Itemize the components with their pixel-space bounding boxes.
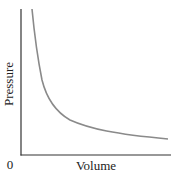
pressure-volume-chart: 0 Volume Pressure: [0, 0, 180, 184]
origin-label: 0: [7, 157, 14, 172]
pressure-volume-curve: [32, 9, 168, 139]
x-axis-label: Volume: [76, 158, 116, 173]
y-axis-label: Pressure: [1, 62, 16, 106]
